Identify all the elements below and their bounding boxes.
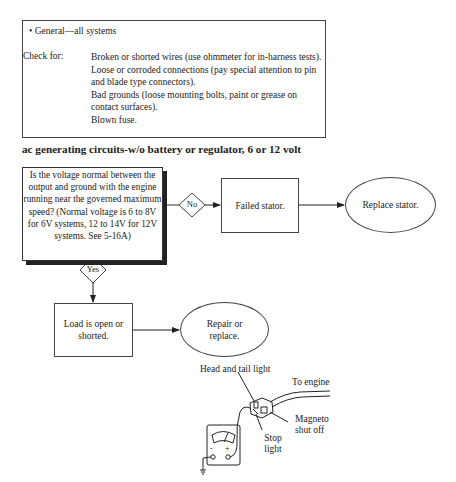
failed-stator-box: Failed stator. [221,178,299,233]
replace-stator-ellipse: Replace stator. [345,177,436,233]
magneto-shutoff-label: Magneto shut off [295,414,345,436]
stop-light-label: Stop light [258,433,288,455]
meter-plus-label: + [225,444,230,453]
repair-replace-ellipse: Repair or replace. [180,302,269,357]
load-open-box: Load is open or shorted. [54,303,133,357]
question-box: Is the voltage normal between the output… [22,167,163,261]
meter-minus-label: - [210,444,213,453]
to-engine-label: To engine [292,377,330,388]
no-label: No [182,199,202,209]
yes-label: Yes [82,264,104,274]
head-tail-light-label: Head and tail light [200,364,270,375]
